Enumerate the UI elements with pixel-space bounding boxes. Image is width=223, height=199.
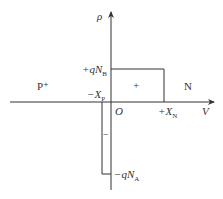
svg-text:−XP: −XP <box>87 88 105 103</box>
negative-sign: − <box>103 129 109 140</box>
vertical-axis-label: ρ <box>96 10 102 22</box>
p-region-label: P⁺ <box>37 80 49 92</box>
left-boundary-label: −XP <box>87 88 105 103</box>
n-region-label: N <box>184 80 192 92</box>
positive-sign: + <box>133 79 139 91</box>
svg-text:+XN: +XN <box>158 105 177 120</box>
svg-text:+qNB: +qNB <box>82 63 107 78</box>
charge-density-diagram: ρ V O P⁺ N +qNB −qNA −XP +XN <box>0 0 223 199</box>
negative-level-label: −qNA <box>114 168 139 183</box>
right-boundary-label: +XN <box>158 105 177 120</box>
origin-label: O <box>115 105 123 117</box>
diagram-canvas: ρ V O P⁺ N +qNB −qNA −XP +XN <box>0 0 223 199</box>
positive-level-label: +qNB <box>82 63 107 78</box>
horizontal-axis-label: V <box>202 105 210 117</box>
svg-text:−qNA: −qNA <box>114 168 139 183</box>
